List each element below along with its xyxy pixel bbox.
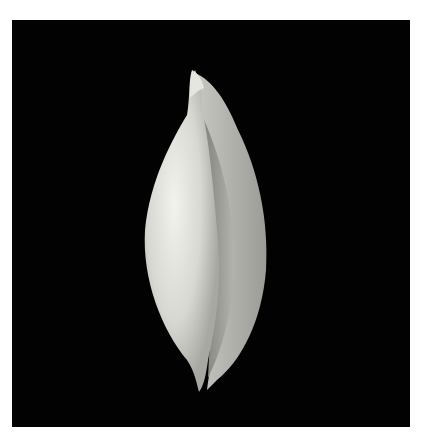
shell-photo [12,20,410,427]
shell-illustration [12,20,410,427]
